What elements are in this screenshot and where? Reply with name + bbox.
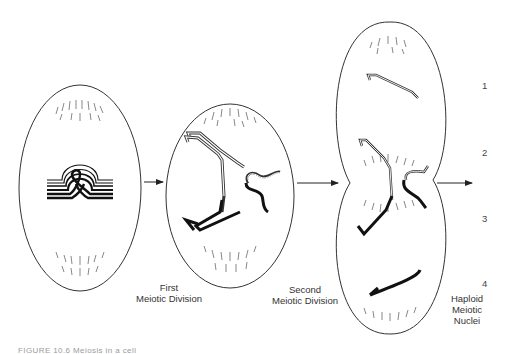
spindle-bottom xyxy=(204,246,256,272)
spindle-bottom xyxy=(364,307,416,321)
nucleus-number-2: 2 xyxy=(482,147,487,158)
label-first-meiotic-division: First Meiotic Division xyxy=(104,282,234,304)
chromosome-pair-a xyxy=(186,133,244,230)
label-line: Meiotic xyxy=(447,304,487,315)
chromosome-pair-b xyxy=(246,172,280,212)
nucleus-number-3: 3 xyxy=(482,213,487,224)
label-line: Meiotic Division xyxy=(104,293,234,304)
paired-chromosomes xyxy=(47,165,113,198)
chromatid-2 xyxy=(360,140,428,200)
nucleus-number-4: 4 xyxy=(482,278,487,289)
spindle-top xyxy=(204,108,256,127)
label-haploid-meiotic-nuclei: Haploid Meiotic Nuclei xyxy=(447,293,487,326)
cell-after-first-division xyxy=(166,104,294,288)
label-second-meiotic-division: Second Meiotic Division xyxy=(250,284,360,306)
chromatid-1 xyxy=(368,75,418,98)
spindle-bottom xyxy=(56,252,104,276)
label-line: First xyxy=(104,282,234,293)
label-line: Second xyxy=(250,284,360,295)
label-line: Haploid xyxy=(447,293,487,304)
spindle-top xyxy=(56,100,103,121)
label-line: Nuclei xyxy=(447,315,487,326)
chromatid-4 xyxy=(370,270,420,295)
cell-prophase xyxy=(19,85,141,291)
label-line: Meiotic Division xyxy=(250,295,360,306)
spindle-top xyxy=(370,36,406,54)
nucleus-number-1: 1 xyxy=(482,80,487,91)
figure-caption: FIGURE 10.6 Meiosis in a cell xyxy=(18,346,136,354)
